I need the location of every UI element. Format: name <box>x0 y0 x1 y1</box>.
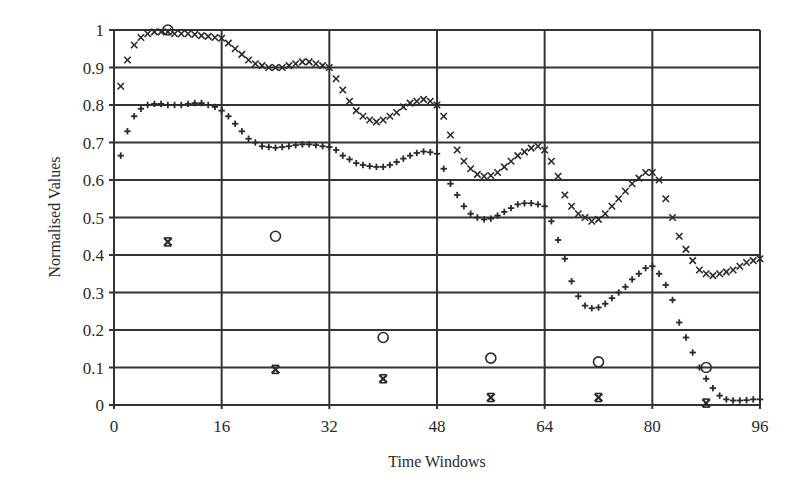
tick-labels: 00.10.20.30.40.50.60.70.80.9101632486480… <box>83 21 769 436</box>
gridlines <box>109 30 760 409</box>
y-tick-label: 0.1 <box>83 359 104 378</box>
y-tick-label: 0.5 <box>83 209 104 228</box>
y-tick-label: 0.2 <box>83 321 104 340</box>
x-tick-label: 48 <box>429 417 446 436</box>
x-tick-label: 80 <box>644 417 661 436</box>
y-tick-label: 0.8 <box>83 96 104 115</box>
x-axis-title: Time Windows <box>388 453 486 470</box>
scatter-chart: 00.10.20.30.40.50.60.70.80.9101632486480… <box>0 0 802 486</box>
x-tick-label: 0 <box>110 417 119 436</box>
series-plus-markers <box>118 100 764 404</box>
x-tick-label: 16 <box>213 417 230 436</box>
x-tick-label: 96 <box>752 417 769 436</box>
plot-area <box>118 25 764 407</box>
series-x-markers <box>118 29 764 279</box>
y-tick-label: 0.7 <box>83 134 105 153</box>
y-tick-label: 1 <box>96 21 105 40</box>
y-tick-label: 0.3 <box>83 284 104 303</box>
y-axis-title: Normalised Values <box>46 156 63 277</box>
x-tick-label: 32 <box>321 417 338 436</box>
y-tick-label: 0.6 <box>83 171 104 190</box>
y-tick-label: 0 <box>96 396 105 415</box>
x-tick-label: 64 <box>536 417 554 436</box>
y-tick-label: 0.4 <box>83 246 105 265</box>
y-tick-label: 0.9 <box>83 59 104 78</box>
